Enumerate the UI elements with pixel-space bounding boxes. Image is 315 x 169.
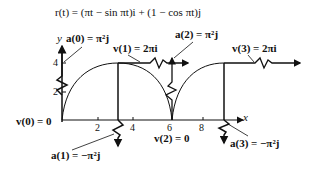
v1-vector xyxy=(118,58,188,68)
label-v0: v(0) = 0 xyxy=(16,116,52,127)
x-tick-8: 8 xyxy=(199,123,204,133)
label-a2: a(2) = π²j xyxy=(175,29,218,40)
label-a0: a(0) = π²j xyxy=(66,33,109,44)
y-axis-label: y xyxy=(57,33,62,44)
a3-vector xyxy=(219,120,229,143)
a1-vector xyxy=(113,120,123,146)
x-tick-2: 2 xyxy=(95,123,100,133)
x-axis-label: x xyxy=(243,112,248,123)
y-tick-4: 4 xyxy=(53,58,58,68)
v3-vector xyxy=(224,58,300,68)
label-v1: v(1) = 2πi xyxy=(113,43,158,54)
label-v2: v(2) = 0 xyxy=(154,133,190,144)
x-tick-4: 4 xyxy=(130,123,135,133)
y-tick-2: 2 xyxy=(53,87,58,97)
label-v3: v(3) = 2πi xyxy=(232,43,277,54)
label-a3: a(3) = −π²j xyxy=(230,138,279,149)
label-a1: a(1) = −π²j xyxy=(51,150,100,161)
cycloid-arch-2 xyxy=(172,63,224,120)
cycloid-arch-1 xyxy=(62,63,172,120)
